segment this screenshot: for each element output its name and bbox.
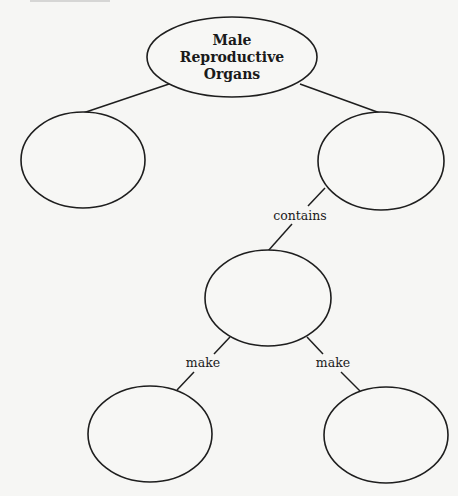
bottom-right-node-blank[interactable] [324, 387, 448, 483]
edge-label-make-right: make [316, 355, 350, 370]
root-label-line-1: Male [213, 32, 252, 48]
edge-right-to-contains-label [308, 188, 325, 206]
edge-middle-to-left-make-label [214, 337, 230, 354]
root-label-line-3: Organs [204, 66, 261, 82]
right-node-blank[interactable] [318, 112, 444, 210]
edge-label-contains: contains [273, 208, 327, 223]
edge-root-to-right [300, 84, 380, 113]
concept-map-canvas: Male Reproductive Organs contains make m… [0, 0, 458, 496]
top-cutoff-text-fragment [30, 0, 110, 2]
bottom-left-node-blank[interactable] [88, 386, 212, 482]
edge-contains-label-to-middle [268, 224, 292, 251]
left-node-blank[interactable] [21, 112, 145, 208]
edge-root-to-left [83, 83, 172, 113]
edge-label-make-left: make [186, 355, 220, 370]
middle-node-blank[interactable] [205, 250, 331, 346]
root-label-line-2: Reproductive [180, 49, 284, 65]
edge-right-make-label-to-bottom-right [341, 372, 360, 391]
root-node: Male Reproductive Organs [147, 17, 317, 97]
edge-left-make-label-to-bottom-left [177, 372, 194, 390]
edge-middle-to-right-make-label [307, 337, 323, 354]
